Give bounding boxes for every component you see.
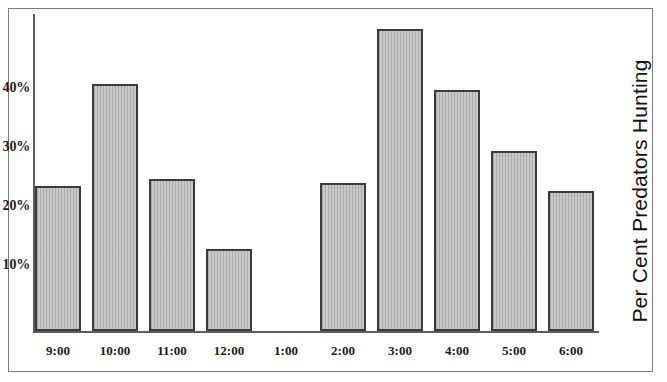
x-axis-line xyxy=(33,331,599,333)
x-tick-label: 4:00 xyxy=(445,343,469,359)
bar-4-00 xyxy=(434,90,480,331)
y-axis-title-text: Per Cent Predators Hunting xyxy=(628,59,652,322)
bar-3-00 xyxy=(377,29,423,331)
y-axis-title: Per Cent Predators Hunting xyxy=(619,0,661,382)
x-tick-label: 1:00 xyxy=(274,343,298,359)
bar-11-00 xyxy=(149,179,195,331)
bar-5-00 xyxy=(491,151,537,331)
x-tick-label: 9:00 xyxy=(46,343,70,359)
bar-slot xyxy=(491,14,537,331)
bar-slot xyxy=(548,14,594,331)
x-tick-label: 11:00 xyxy=(157,343,187,359)
y-tick-label: 10% xyxy=(3,257,30,273)
bar-slot xyxy=(206,14,252,331)
x-tick-label: 12:00 xyxy=(214,343,244,359)
bar-6-00 xyxy=(548,191,594,331)
y-tick-label: 30% xyxy=(3,139,30,155)
bar-slot xyxy=(92,14,138,331)
y-tick-label: 40% xyxy=(3,80,30,96)
bar-chart-figure: 40% 30% 20% 10% xyxy=(0,0,667,382)
bar-9-00 xyxy=(35,186,81,331)
bar-series xyxy=(35,14,598,331)
y-tick-label: 20% xyxy=(3,198,30,214)
x-tick-label: 2:00 xyxy=(331,343,355,359)
bar-2-00 xyxy=(320,183,366,331)
bar-slot xyxy=(263,14,309,331)
bar-slot xyxy=(149,14,195,331)
bar-10-00 xyxy=(92,84,138,331)
bar-slot xyxy=(434,14,480,331)
bar-slot xyxy=(35,14,81,331)
bar-12-00 xyxy=(206,249,252,331)
x-tick-label: 10:00 xyxy=(100,343,130,359)
x-tick-label: 5:00 xyxy=(502,343,526,359)
x-tick-label: 6:00 xyxy=(559,343,583,359)
bar-slot xyxy=(320,14,366,331)
bar-slot xyxy=(377,14,423,331)
y-tick-labels: 40% 30% 20% 10% xyxy=(0,0,30,382)
x-tick-label: 3:00 xyxy=(388,343,412,359)
